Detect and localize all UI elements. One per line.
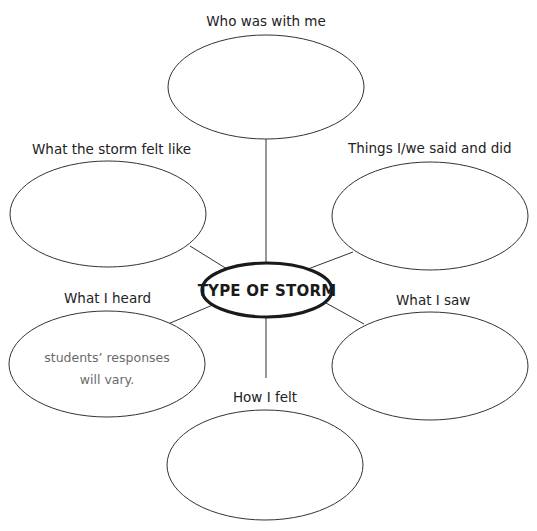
- node-how-i-felt: How I felt: [167, 389, 363, 520]
- answer-bubble[interactable]: [10, 161, 206, 267]
- node-label: What I saw: [396, 292, 470, 308]
- connector-upper-left: [190, 246, 227, 269]
- node-label: What the storm felt like: [32, 141, 191, 157]
- connector-upper-right: [308, 252, 353, 269]
- connector-lower-right: [326, 303, 364, 324]
- node-label: What I heard: [64, 290, 151, 306]
- sample-response-line2: will vary.: [80, 372, 134, 387]
- answer-bubble[interactable]: [332, 312, 528, 420]
- connector-lower-left: [168, 304, 215, 324]
- center-hub: TYPE OF STORM: [198, 263, 337, 317]
- answer-bubble[interactable]: [168, 35, 364, 139]
- node-label: Things I/we said and did: [347, 140, 512, 156]
- center-label: TYPE OF STORM: [198, 282, 337, 300]
- answer-bubble[interactable]: [167, 410, 363, 520]
- node-what-i-saw: What I saw: [332, 292, 528, 420]
- node-things-said-and-did: Things I/we said and did: [332, 140, 528, 270]
- node-what-i-heard: What I heard students’ responses will va…: [9, 290, 205, 417]
- node-what-the-storm-felt-like: What the storm felt like: [10, 141, 206, 267]
- node-label: How I felt: [233, 389, 297, 405]
- node-label: Who was with me: [206, 13, 325, 29]
- sample-response-line1: students’ responses: [44, 350, 170, 365]
- node-who-was-with-me: Who was with me: [168, 13, 364, 139]
- answer-bubble[interactable]: [332, 162, 528, 270]
- storm-web-diagram: Who was with me What the storm felt like…: [0, 0, 537, 531]
